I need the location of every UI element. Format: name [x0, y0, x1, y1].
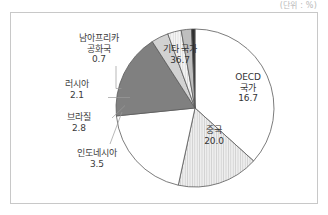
slice-label-south-africa-line1: 남아프리카: [79, 33, 119, 43]
slice-label-oecd-line1: OECD: [235, 72, 261, 82]
slice-label-other-countries-name: 기타 국가: [163, 44, 197, 54]
slice-label-china-name: 중국: [206, 125, 222, 135]
slice-value-other-countries: 36.7: [141, 55, 219, 66]
slice-value-brazil: 2.8: [50, 123, 108, 134]
slice-label-china: 중국 20.0: [190, 125, 238, 146]
slice-label-india: 인도 17.5: [138, 129, 182, 150]
slice-value-indonesia: 3.5: [52, 159, 142, 170]
slice-value-russia: 2.1: [48, 90, 106, 101]
pie-chart: [0, 0, 328, 215]
slice-label-indonesia-name: 인도네시아: [77, 148, 117, 158]
slice-value-south-africa: 0.7: [57, 54, 141, 65]
slice-label-russia-name: 러시아: [65, 79, 89, 89]
slice-value-india: 17.5: [138, 140, 182, 151]
slice-label-oecd: OECD 국가 16.7: [223, 72, 273, 104]
slice-label-brazil-name: 브라질: [67, 112, 91, 122]
slice-label-oecd-line2: 국가: [223, 83, 273, 94]
slice-label-south-africa-line2: 공화국: [57, 44, 141, 55]
slice-label-india-name: 인도: [152, 129, 168, 139]
slice-label-russia: 러시아 2.1: [48, 79, 106, 100]
slice-value-oecd: 16.7: [223, 93, 273, 104]
slice-value-china: 20.0: [190, 136, 238, 147]
slice-label-south-africa: 남아프리카 공화국 0.7: [57, 33, 141, 65]
slice-label-brazil: 브라질 2.8: [50, 112, 108, 133]
slice-label-other-countries: 기타 국가 36.7: [141, 44, 219, 65]
slice-label-indonesia: 인도네시아 3.5: [52, 148, 142, 169]
